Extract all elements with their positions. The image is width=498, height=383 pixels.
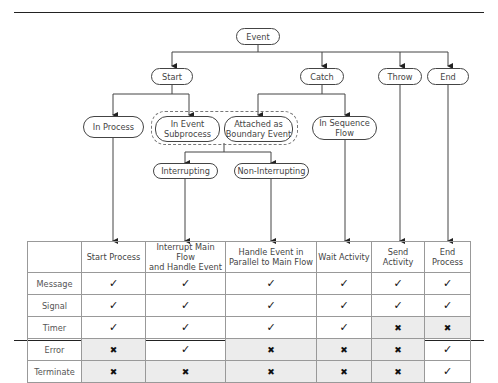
- table-cell: ✓: [317, 295, 372, 317]
- table-cell: ✖: [226, 361, 317, 383]
- check-icon: ✓: [181, 277, 190, 290]
- cross-icon: ✖: [267, 345, 275, 355]
- table-cell: ✓: [425, 361, 471, 383]
- table-cell: ✓: [226, 273, 317, 295]
- table-cell: ✖: [82, 339, 146, 361]
- table-cell: ✓: [146, 317, 226, 339]
- header-blank: [28, 242, 82, 273]
- table-cell: ✓: [226, 317, 317, 339]
- table-row: Message✓✓✓✓✓✓: [28, 273, 471, 295]
- table-cell: ✓: [372, 295, 425, 317]
- event-node: Event: [236, 28, 280, 45]
- cross-icon: ✖: [394, 367, 402, 377]
- table-cell: ✓: [372, 273, 425, 295]
- cross-icon: ✖: [182, 367, 190, 377]
- table-cell: ✖: [372, 361, 425, 383]
- table-cell: ✓: [82, 273, 146, 295]
- in-process-node: In Process: [83, 116, 144, 138]
- table-cell: ✓: [425, 295, 471, 317]
- row-label: Signal: [28, 295, 82, 317]
- table-cell: ✓: [82, 317, 146, 339]
- table-cell: ✖: [226, 339, 317, 361]
- cross-icon: ✖: [340, 345, 348, 355]
- check-icon: ✓: [266, 321, 275, 334]
- check-icon: ✓: [181, 343, 190, 356]
- in-sequence-flow-node: In Sequence Flow: [312, 116, 377, 140]
- non-interrupting-node: Non-Interrupting: [234, 163, 309, 179]
- throw-node: Throw: [378, 68, 422, 85]
- check-icon: ✓: [393, 299, 402, 312]
- end-node: End: [427, 68, 469, 85]
- cross-icon: ✖: [340, 367, 348, 377]
- row-label: Timer: [28, 317, 82, 339]
- boundary-event-node: Attached as Boundary Event: [224, 116, 293, 142]
- table-row: Error✖✓✖✖✖✓: [28, 339, 471, 361]
- table-cell: ✖: [82, 361, 146, 383]
- check-icon: ✓: [339, 277, 348, 290]
- check-icon: ✓: [266, 299, 275, 312]
- table-cell: ✖: [425, 317, 471, 339]
- cross-icon: ✖: [110, 367, 118, 377]
- check-icon: ✓: [339, 321, 348, 334]
- check-icon: ✓: [443, 299, 452, 312]
- header-start-process: Start Process: [82, 242, 146, 273]
- start-node: Start: [151, 68, 193, 85]
- row-label: Message: [28, 273, 82, 295]
- in-event-subprocess-node: In Event Subprocess: [155, 116, 220, 142]
- table-row: Timer✓✓✓✓✖✖: [28, 317, 471, 339]
- table-cell: ✖: [146, 361, 226, 383]
- check-icon: ✓: [181, 299, 190, 312]
- table-cell: ✓: [317, 317, 372, 339]
- table-cell: ✓: [146, 339, 226, 361]
- check-icon: ✓: [109, 321, 118, 334]
- table-cell: ✓: [82, 295, 146, 317]
- table-cell: ✖: [317, 361, 372, 383]
- row-label: Error: [28, 339, 82, 361]
- table-header-row: Start Process Interrupt Main Flow and Ha…: [28, 242, 471, 273]
- table-cell: ✓: [317, 273, 372, 295]
- table-cell: ✓: [146, 273, 226, 295]
- table-row: Terminate✖✖✖✖✖✓: [28, 361, 471, 383]
- header-end-process: End Process: [425, 242, 471, 273]
- interrupting-node: Interrupting: [153, 163, 218, 179]
- check-icon: ✓: [109, 299, 118, 312]
- header-handle-in-parallel: Handle Event in Parallel to Main Flow: [226, 242, 317, 273]
- cross-icon: ✖: [394, 323, 402, 333]
- event-capability-table: Start Process Interrupt Main Flow and Ha…: [27, 241, 471, 383]
- check-icon: ✓: [266, 277, 275, 290]
- table-row: Signal✓✓✓✓✓✓: [28, 295, 471, 317]
- cross-icon: ✖: [394, 345, 402, 355]
- table-cell: ✖: [372, 339, 425, 361]
- check-icon: ✓: [393, 277, 402, 290]
- table-cell: ✓: [425, 273, 471, 295]
- check-icon: ✓: [181, 321, 190, 334]
- header-interrupt-main-flow: Interrupt Main Flow and Handle Event: [146, 242, 226, 273]
- table-cell: ✓: [146, 295, 226, 317]
- check-icon: ✓: [339, 299, 348, 312]
- table-cell: ✓: [226, 295, 317, 317]
- check-icon: ✓: [109, 277, 118, 290]
- row-label: Terminate: [28, 361, 82, 383]
- header-wait-activity: Wait Activity: [317, 242, 372, 273]
- catch-node: Catch: [300, 68, 344, 85]
- table-cell: ✖: [317, 339, 372, 361]
- header-send-activity: Send Activity: [372, 242, 425, 273]
- cross-icon: ✖: [110, 345, 118, 355]
- check-icon: ✓: [443, 343, 452, 356]
- table-cell: ✓: [425, 339, 471, 361]
- table-cell: ✖: [372, 317, 425, 339]
- cross-icon: ✖: [444, 323, 452, 333]
- check-icon: ✓: [443, 365, 452, 378]
- cross-icon: ✖: [267, 367, 275, 377]
- check-icon: ✓: [443, 277, 452, 290]
